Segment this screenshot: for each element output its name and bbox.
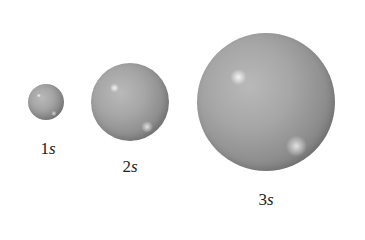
orbital-1s-label: 1s [40,139,55,159]
orbital-1s-sphere [28,84,64,120]
orbital-2s-sphere [91,63,169,141]
orbital-3s-label: 3s [258,190,273,210]
orbital-3s-sphere [197,33,335,171]
orbital-2s-label: 2s [122,157,137,177]
